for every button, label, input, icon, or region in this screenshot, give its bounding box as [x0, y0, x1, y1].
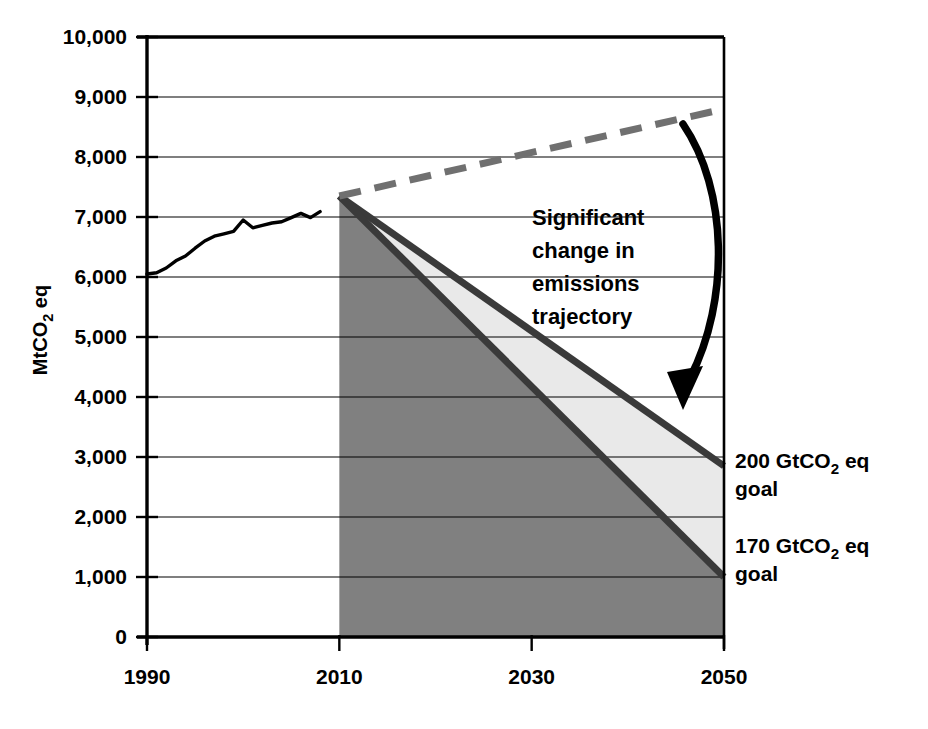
y-tick-label: 10,000	[63, 25, 127, 48]
svg-text:change in: change in	[532, 238, 635, 263]
y-tick-label: 3,000	[74, 445, 127, 468]
y-tick-label: 6,000	[74, 265, 127, 288]
y-tick-label: 4,000	[74, 385, 127, 408]
y-tick-label: 2,000	[74, 505, 127, 528]
y-tick-label: 9,000	[74, 85, 127, 108]
svg-text:emissions: emissions	[532, 271, 640, 296]
x-tick-label: 1990	[124, 665, 171, 688]
y-tick-label: 0	[115, 625, 127, 648]
x-tick-label: 2050	[701, 665, 748, 688]
svg-text:goal: goal	[735, 562, 778, 585]
svg-text:trajectory: trajectory	[532, 304, 633, 329]
y-tick-label: 7,000	[74, 205, 127, 228]
y-tick-label: 5,000	[74, 325, 127, 348]
chart-figure: 01,0002,0003,0004,0005,0006,0007,0008,00…	[0, 0, 928, 729]
x-tick-label: 2010	[316, 665, 363, 688]
y-tick-label: 8,000	[74, 145, 127, 168]
emissions-trajectory-chart: 01,0002,0003,0004,0005,0006,0007,0008,00…	[0, 0, 928, 729]
y-tick-label: 1,000	[74, 565, 127, 588]
svg-text:Significant: Significant	[532, 205, 645, 230]
svg-text:goal: goal	[735, 477, 778, 500]
x-tick-label: 2030	[508, 665, 555, 688]
